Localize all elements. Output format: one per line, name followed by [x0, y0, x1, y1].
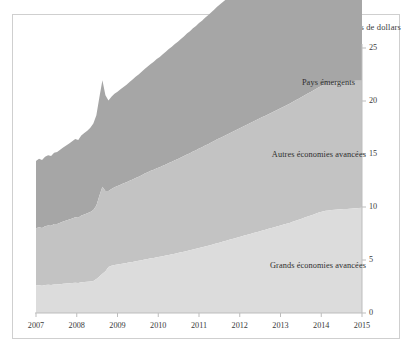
x-tick-label: 2008	[60, 321, 94, 330]
y-tick-label: 10	[369, 202, 389, 211]
x-tick-label: 2011	[182, 321, 216, 330]
x-tick-label: 2012	[223, 321, 257, 330]
y-tick-label: 15	[369, 149, 389, 158]
x-tick-label: 2007	[19, 321, 53, 330]
y-tick-label: 5	[369, 255, 389, 264]
x-tick-label: 2015	[345, 321, 379, 330]
x-tick-label: 2009	[101, 321, 135, 330]
series-label-pays-emergents: Pays émergents	[302, 78, 355, 87]
y-tick-label: 25	[369, 43, 389, 52]
x-tick-label: 2010	[141, 321, 175, 330]
x-tick-label: 2014	[304, 321, 338, 330]
x-axis-ticks	[36, 313, 362, 317]
x-tick-label: 2013	[264, 321, 298, 330]
series-label-grands-economies-avancees: Grands économies avancées	[270, 261, 366, 270]
y-tick-label: 0	[369, 308, 389, 317]
series-label-autres-economies-avancees: Autres économies avancées	[272, 150, 366, 159]
stacked-area-plot	[0, 0, 413, 355]
y-tick-label: 20	[369, 96, 389, 105]
chart-figure: Milliers de milliards de dollars Pays ém…	[0, 0, 413, 355]
y-axis-ticks	[362, 48, 366, 313]
